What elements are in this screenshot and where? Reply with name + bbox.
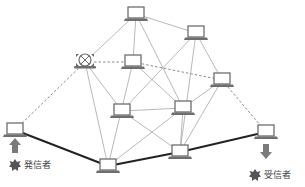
n2-laptop-icon <box>184 26 208 40</box>
connection-line <box>136 14 183 108</box>
dashed-connection-line <box>15 62 85 130</box>
sender-up-arrow-icon <box>9 138 21 153</box>
connection-line <box>180 80 222 152</box>
route-line <box>180 132 266 152</box>
receiver-badge-icon <box>249 169 261 181</box>
connection-line <box>122 33 196 111</box>
network-nodes <box>3 7 278 173</box>
receiver-label: 受信者 <box>264 170 291 180</box>
receiver-down-arrow-icon <box>260 144 272 159</box>
n9-laptop-icon <box>96 159 120 173</box>
receiver-laptop-icon <box>254 125 278 139</box>
connection-line <box>180 33 196 152</box>
n4-laptop-icon <box>121 55 145 69</box>
connection-line <box>122 108 183 111</box>
sender-label: 発信者 <box>24 160 51 170</box>
n5-laptop-icon <box>210 73 234 87</box>
dashed-connection-line <box>133 62 222 80</box>
sender-badge-icon <box>9 159 21 171</box>
bold-route <box>15 130 266 166</box>
n7-laptop-icon <box>171 101 195 115</box>
broken-node-icon <box>74 54 96 69</box>
network-diagram <box>0 0 305 187</box>
n1-laptop-icon <box>124 7 148 21</box>
connection-line <box>136 14 196 33</box>
dashed-connection-line <box>222 80 266 132</box>
n8-laptop-icon <box>168 145 192 159</box>
n6-laptop-icon <box>110 104 134 118</box>
sender-laptop-icon <box>3 123 27 137</box>
